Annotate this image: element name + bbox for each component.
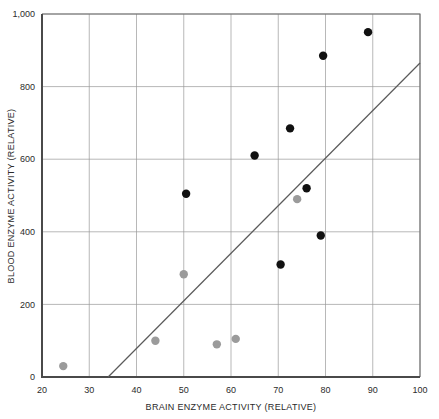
- scatter-point: [59, 362, 67, 370]
- x-tick-label: 90: [368, 385, 378, 395]
- x-axis-title: BRAIN ENZYME ACTIVITY (RELATIVE): [146, 402, 317, 412]
- scatter-point: [364, 28, 372, 36]
- scatter-point: [232, 335, 240, 343]
- scatter-point: [293, 195, 301, 203]
- scatter-point: [213, 340, 221, 348]
- scatter-plot-figure: 203040506070809010002004006008001,000 BR…: [0, 0, 439, 419]
- x-tick-label: 60: [226, 385, 236, 395]
- scatter-point: [151, 337, 159, 345]
- scatter-point: [302, 184, 310, 192]
- scatter-point: [317, 231, 325, 239]
- y-tick-label: 600: [20, 154, 35, 164]
- x-tick-label: 50: [179, 385, 189, 395]
- y-tick-label: 0: [30, 372, 35, 382]
- y-tick-label: 800: [20, 82, 35, 92]
- y-tick-label: 200: [20, 300, 35, 310]
- x-tick-label: 30: [84, 385, 94, 395]
- scatter-point: [286, 124, 294, 132]
- y-tick-label: 1,000: [12, 9, 35, 19]
- scatter-point: [276, 260, 284, 268]
- x-tick-label: 100: [412, 385, 427, 395]
- y-tick-label: 400: [20, 227, 35, 237]
- plot-background: [0, 0, 439, 419]
- x-tick-label: 80: [320, 385, 330, 395]
- scatter-point: [319, 52, 327, 60]
- scatter-point: [182, 189, 190, 197]
- y-axis-title: BLOOD ENZYME ACTIVITY (RELATIVE): [6, 109, 16, 284]
- x-tick-label: 40: [131, 385, 141, 395]
- x-tick-label: 70: [273, 385, 283, 395]
- scatter-point: [250, 151, 258, 159]
- x-tick-label: 20: [37, 385, 47, 395]
- scatter-point: [180, 270, 188, 278]
